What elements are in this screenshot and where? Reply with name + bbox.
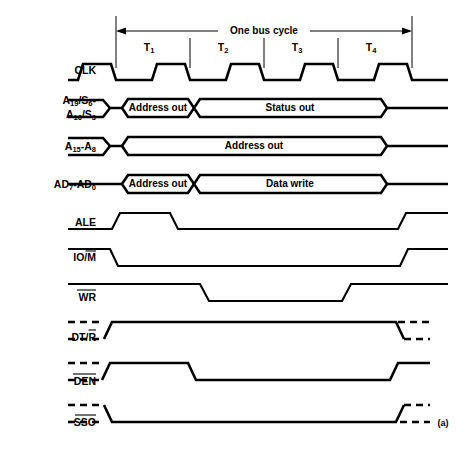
signal-label-io-m: IO/M <box>73 251 96 263</box>
signal-row-den: DEN <box>68 363 430 387</box>
cycle-arrowhead-right <box>402 28 412 35</box>
signal-row-io-m: IO/M <box>68 249 448 266</box>
bus-label-a19-status: Status out <box>266 102 316 113</box>
signal-label-a15-a8: A15-A8 <box>65 140 96 154</box>
signal-row-wr: WR <box>68 284 448 303</box>
bus-cycle-label: One bus cycle <box>230 25 298 36</box>
signal-label-clk: CLK <box>74 64 96 76</box>
waveform-wr <box>68 284 448 301</box>
bus-label-ad-address: Address out <box>129 178 188 189</box>
waveform-io-m <box>68 249 448 266</box>
bus-cycle-annotation: One bus cycle <box>116 25 412 36</box>
bus-label-ad-datawrite: Data write <box>266 178 314 189</box>
bus-label-a19-address: Address out <box>129 102 188 113</box>
signal-label-a19-s6-line2: A16/S3 <box>66 108 96 122</box>
signal-row-ad7-ad0: AD7-AD0 Address out Data write <box>54 175 448 193</box>
signal-label-wr: WR <box>79 291 97 303</box>
signal-row-ale: ALE <box>68 213 448 229</box>
signal-row-a19-s6: A19/S6- A16/S3 Address out Status out <box>62 94 448 122</box>
waveform-den-active <box>102 363 430 380</box>
signal-row-sso: SSO <box>68 405 430 428</box>
tstate-label-t3: T3 <box>292 41 303 55</box>
signal-label-dt-r: DT/R <box>72 331 97 343</box>
signal-row-clk: CLK <box>68 64 448 80</box>
timing-diagram: One bus cycle T1 T2 T3 T4 CLK A19/S6- A1… <box>0 0 465 451</box>
cycle-arrowhead-left <box>116 28 126 35</box>
tstate-labels: T1 T2 T3 T4 <box>144 41 377 55</box>
waveform-ale <box>68 213 448 229</box>
timing-diagram-canvas: One bus cycle T1 T2 T3 T4 CLK A19/S6- A1… <box>0 0 465 451</box>
figure-caption: (a) <box>438 418 449 428</box>
signal-row-dt-r: DT/R <box>68 322 430 343</box>
bus-label-a15-address: Address out <box>225 140 284 151</box>
tstate-label-t4: T4 <box>366 41 377 55</box>
signal-row-a15-a8: A15-A8 Address out <box>65 137 448 155</box>
tstate-label-t2: T2 <box>218 41 229 55</box>
signal-label-ale: ALE <box>75 216 96 228</box>
tstate-label-t1: T1 <box>144 41 155 55</box>
waveform-dt-r-active <box>104 322 404 339</box>
waveform-sso-active <box>104 405 404 422</box>
waveform-clk <box>68 64 448 80</box>
